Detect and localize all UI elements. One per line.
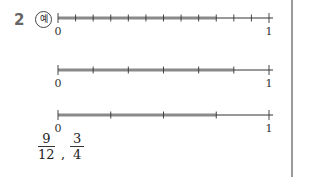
separator: , [61, 146, 65, 161]
axis-label: 0 [55, 25, 62, 38]
axis-label: 0 [55, 122, 62, 135]
denominator: 12 [38, 147, 55, 162]
axis-label: 0 [55, 77, 62, 90]
number-line-2: 01 [55, 65, 274, 90]
answer-fraction-2: 3 4 [70, 132, 84, 162]
numerator: 9 [38, 132, 55, 147]
numerator: 3 [70, 132, 84, 147]
denominator: 4 [70, 147, 84, 162]
number-line-1: 01 [55, 13, 274, 38]
answer-fraction-1: 9 12 [38, 132, 55, 162]
number-line-3: 01 [55, 110, 274, 135]
axis-label: 1 [266, 25, 273, 38]
axis-label: 1 [266, 122, 273, 135]
axis-label: 1 [266, 77, 273, 90]
